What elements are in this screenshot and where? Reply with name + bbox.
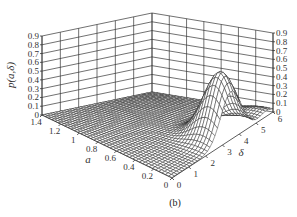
z-tick-left: 0.6 bbox=[28, 57, 40, 67]
z-tick-right: 0.3 bbox=[276, 81, 288, 91]
z-tick-right: 0.9 bbox=[276, 28, 288, 38]
x-tick: 0.2 bbox=[142, 171, 153, 181]
x-tick: 0.6 bbox=[105, 153, 117, 163]
z-tick-left: 0.9 bbox=[28, 31, 40, 41]
z-tick-left: 0.3 bbox=[28, 84, 40, 94]
x-tick: 0 bbox=[164, 180, 169, 190]
z-tick-right: 0.7 bbox=[276, 46, 288, 56]
y-tick: 6 bbox=[278, 114, 283, 124]
x-tick: 0.4 bbox=[123, 162, 135, 172]
z-tick-left: 0.5 bbox=[28, 66, 40, 76]
z-tick-left: 0.2 bbox=[28, 92, 39, 102]
x-tick: 1 bbox=[71, 135, 76, 145]
y-axis-label: δ bbox=[238, 146, 244, 158]
surface-plot: 000.10.10.20.20.30.30.40.40.50.50.60.60.… bbox=[0, 0, 297, 217]
x-axis-label: a bbox=[85, 153, 91, 165]
y-tick: 0 bbox=[177, 180, 182, 190]
y-tick: 4 bbox=[244, 136, 249, 146]
z-tick-right: 0.8 bbox=[276, 37, 288, 47]
x-tick: 1.2 bbox=[49, 126, 60, 136]
z-tick-right: 0.6 bbox=[276, 54, 288, 64]
y-tick: 2 bbox=[210, 158, 215, 168]
z-tick-left: 0.4 bbox=[28, 75, 40, 85]
z-tick-left: 0.7 bbox=[28, 49, 40, 59]
y-tick: 1 bbox=[194, 169, 199, 179]
z-tick-right: 0.1 bbox=[276, 98, 287, 108]
z-tick-left: 0.8 bbox=[28, 40, 40, 50]
z-tick-right: 0.2 bbox=[276, 89, 287, 99]
z-tick-left: 0.1 bbox=[28, 101, 39, 111]
y-tick: 3 bbox=[227, 147, 232, 157]
y-tick: 5 bbox=[261, 125, 266, 135]
x-tick: 1.4 bbox=[30, 117, 42, 127]
z-tick-right: 0.4 bbox=[276, 72, 288, 82]
z-axis-label: p(a,δ) bbox=[4, 62, 17, 90]
figure-caption: (b) bbox=[169, 197, 181, 209]
z-tick-right: 0.5 bbox=[276, 63, 288, 73]
